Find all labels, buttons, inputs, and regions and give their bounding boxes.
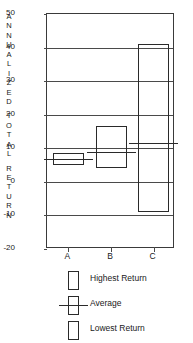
- x-tick-label: A: [64, 252, 70, 261]
- legend-label-highest: Highest Return: [90, 273, 147, 284]
- y-tick-label: 30: [0, 76, 15, 84]
- legend-item-average: Average: [0, 293, 193, 318]
- axis-title-letter: D: [6, 97, 11, 106]
- y-tick-mark: [44, 182, 47, 183]
- candle-b: [96, 14, 127, 249]
- candle-a: [53, 14, 84, 249]
- y-tick-mark: [44, 48, 47, 49]
- y-tick-label: 20: [0, 110, 15, 118]
- y-tick-mark: [44, 14, 47, 15]
- axis-title-letter: O: [6, 121, 12, 130]
- y-tick-mark: [44, 115, 47, 116]
- x-tick-label: C: [150, 252, 156, 261]
- y-tick-label: 0: [0, 177, 15, 185]
- chart-legend: Highest Return Average Lowest Return: [0, 268, 193, 343]
- candle-box: [96, 126, 127, 168]
- legend-item-highest: Highest Return: [0, 268, 193, 293]
- y-tick-mark: [44, 81, 47, 82]
- plot-area: [46, 13, 174, 248]
- axis-title-letter: T: [7, 130, 12, 139]
- y-tick-mark: [44, 148, 47, 149]
- axis-title-letter: U: [6, 192, 11, 201]
- legend-label-average: Average: [90, 298, 122, 309]
- candle-average-line: [87, 152, 136, 153]
- y-tick-label: 40: [0, 43, 15, 51]
- legend-label-lowest: Lowest Return: [90, 323, 145, 334]
- y-tick-label: 50: [0, 9, 15, 17]
- candle-average-line: [129, 143, 178, 144]
- x-tick-label: B: [107, 252, 113, 261]
- candle-c: [138, 14, 169, 249]
- chart-container: ANNUALIZEDTOTALRETURN 50403020100-10-20 …: [0, 0, 193, 343]
- axis-title-letter: N: [6, 31, 11, 40]
- y-tick-label: -20: [0, 244, 15, 252]
- axis-title-letter: E: [6, 88, 11, 97]
- y-tick-label: -10: [0, 210, 15, 218]
- legend-item-lowest: Lowest Return: [0, 318, 193, 343]
- y-tick-mark: [44, 215, 47, 216]
- axis-title-letter: N: [6, 21, 11, 30]
- candle-average-line: [44, 159, 93, 160]
- y-tick-mark: [44, 249, 47, 250]
- axis-title-letter: A: [6, 50, 11, 59]
- legend-swatch-lowest: [68, 321, 79, 340]
- axis-title-letter: L: [7, 59, 11, 68]
- legend-swatch-highest: [68, 271, 79, 290]
- y-tick-label: 10: [0, 143, 15, 151]
- candle-box: [138, 44, 169, 212]
- legend-swatch-average: [68, 296, 79, 315]
- axis-title-letter: R: [6, 164, 11, 173]
